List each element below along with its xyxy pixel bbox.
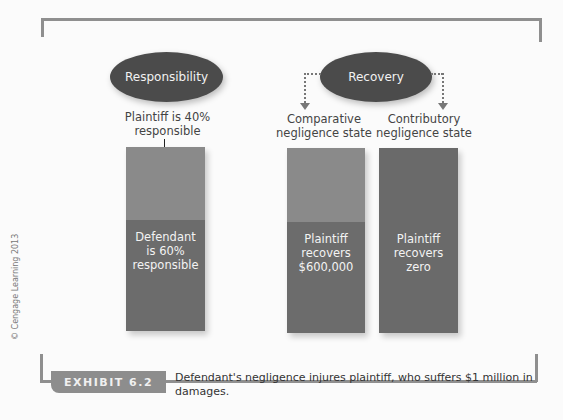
exhibit-label: EXHIBIT 6.2 (51, 371, 166, 393)
contributory-recovery-label: Plaintiff recovers zero (379, 232, 458, 274)
right-arrow-icon (438, 103, 448, 110)
contributory-bar: Plaintiff recovers zero (379, 148, 458, 333)
left-arrow-icon (300, 103, 310, 110)
defendant-share-label: Defendant is 60% responsible (126, 230, 205, 272)
plaintiff-responsibility-caption: Plaintiff is 40% responsible (105, 110, 230, 138)
exhibit-caption: Defendant's negligence injures plaintiff… (175, 371, 545, 399)
right-connector-vertical (442, 73, 444, 103)
frame-top-right-tick (539, 18, 542, 42)
copyright-notice: © Cengage Learning 2013 (11, 234, 20, 340)
left-connector-horizontal (304, 73, 321, 75)
plaintiff-share-segment (126, 147, 205, 220)
recovery-ellipse: Recovery (320, 52, 432, 102)
frame-top-left-tick (41, 18, 44, 37)
responsibility-title: Responsibility (125, 70, 208, 84)
contributory-caption: Contributory negligence state (374, 112, 474, 140)
responsibility-ellipse: Responsibility (110, 52, 223, 102)
frame-bottom-left-tick (40, 354, 43, 382)
defendant-share-segment: Defendant is 60% responsible (126, 220, 205, 331)
frame-top-line (41, 18, 542, 21)
comparative-recovery-label: Plaintiff recovers $600,000 (287, 232, 365, 274)
comparative-recovery-segment: Plaintiff recovers $600,000 (287, 222, 365, 333)
comparative-bar: Plaintiff recovers $600,000 (287, 148, 365, 333)
left-connector-vertical (304, 73, 306, 103)
comparative-caption: Comparative negligence state (268, 112, 380, 140)
responsibility-bar: Defendant is 60% responsible (126, 147, 205, 331)
recovery-title: Recovery (348, 70, 404, 84)
comparative-reduction-segment (287, 148, 365, 222)
